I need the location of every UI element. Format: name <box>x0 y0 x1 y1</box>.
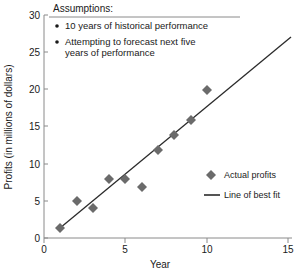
assumptions-heading: Assumptions: <box>53 3 113 14</box>
data-point-10 <box>202 85 212 95</box>
data-point-2 <box>72 196 82 206</box>
legend-label-actual-profits: Actual profits <box>224 170 277 180</box>
x-axis-title: Year <box>150 259 171 270</box>
assumptions-annotation: Assumptions: 10 years of historical perf… <box>49 3 240 58</box>
y-tick-label-0: 0 <box>34 233 40 244</box>
legend-label-line-of-best-fit: Line of best fit <box>224 190 281 200</box>
data-point-4 <box>104 174 114 184</box>
legend: Actual profits Line of best fit <box>204 170 281 200</box>
data-point-5 <box>120 174 130 184</box>
y-tick-label-10: 10 <box>29 159 41 170</box>
assumptions-bullet-1: 10 years of historical performance <box>65 20 208 31</box>
legend-marker-actual-profits <box>206 170 216 180</box>
x-tick-label-5: 5 <box>122 244 128 255</box>
y-tick-label-20: 20 <box>29 84 41 95</box>
x-tick-label-0: 0 <box>41 244 47 255</box>
x-axis-tick-labels: 0 5 10 15 <box>41 244 294 255</box>
scatter-chart: 0 5 10 15 20 25 30 0 5 10 15 Year Profit… <box>0 0 304 273</box>
assumptions-bullet-2-line-1: Attempting to forecast next five <box>65 36 195 47</box>
data-point-6 <box>137 182 147 192</box>
x-tick-label-10: 10 <box>201 244 213 255</box>
chart-canvas: 0 5 10 15 20 25 30 0 5 10 15 Year Profit… <box>0 0 304 273</box>
y-tick-label-30: 30 <box>29 10 41 21</box>
y-axis-title: Profits (in millions of dollars) <box>3 64 14 189</box>
data-point-3 <box>88 203 98 213</box>
y-axis-tick-labels: 0 5 10 15 20 25 30 <box>29 10 41 244</box>
y-axis-ticks <box>44 15 48 238</box>
x-axis-ticks <box>44 238 288 243</box>
data-points-group <box>55 85 212 233</box>
y-tick-label-15: 15 <box>29 121 41 132</box>
assumptions-bullet-2-line-2: years of performance <box>65 47 155 58</box>
bullet-icon-1 <box>55 24 59 28</box>
x-tick-label-15: 15 <box>282 244 294 255</box>
y-tick-label-25: 25 <box>29 47 41 58</box>
y-tick-label-5: 5 <box>34 196 40 207</box>
bullet-icon-2 <box>55 40 59 44</box>
data-point-7 <box>153 145 163 155</box>
